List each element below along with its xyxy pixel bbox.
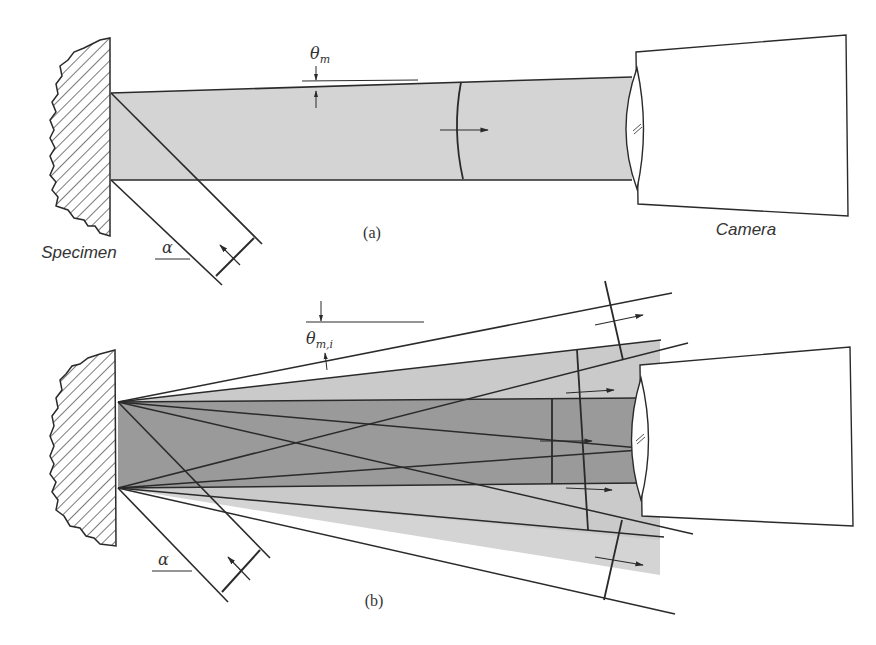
panel-b: θm,i α (b) bbox=[50, 281, 853, 614]
beam-b-core bbox=[118, 398, 640, 488]
camera-label: Camera bbox=[716, 220, 776, 239]
specimen-label: Specimen bbox=[41, 243, 117, 262]
caption-a: (a) bbox=[363, 224, 381, 242]
specimen-b-icon bbox=[50, 350, 116, 546]
specimen-a-icon bbox=[50, 38, 110, 236]
beam-a bbox=[111, 77, 632, 180]
illumination-arrow-b bbox=[228, 557, 250, 580]
alpha-label-b: α bbox=[158, 550, 169, 569]
theta-mi-label: θm,i bbox=[306, 329, 333, 351]
camera-a-body bbox=[636, 35, 848, 216]
diagram-canvas: θm α Specimen Camera (a) bbox=[0, 0, 876, 645]
caption-b: (b) bbox=[365, 592, 384, 610]
camera-b-body bbox=[640, 347, 853, 526]
panel-a: θm α Specimen Camera (a) bbox=[41, 35, 848, 285]
theta-m-label: θm bbox=[310, 44, 330, 66]
alpha-label-a: α bbox=[162, 238, 173, 257]
